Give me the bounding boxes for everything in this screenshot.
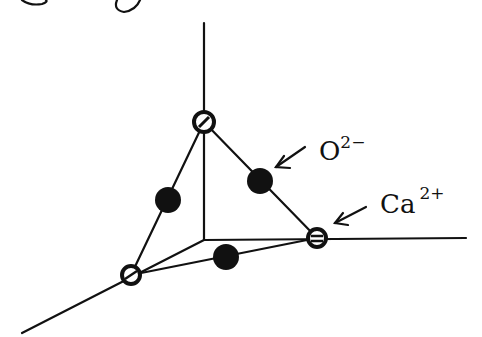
cropped-handwriting-right bbox=[116, 0, 140, 12]
cropped-handwriting-left bbox=[22, 0, 47, 5]
oxide-ion-right bbox=[247, 168, 273, 194]
oxide-pointer-arrow bbox=[276, 147, 305, 168]
calcium-ion-right bbox=[308, 229, 326, 247]
oxide-label: O2− bbox=[319, 132, 365, 166]
diagonal-axis bbox=[22, 240, 204, 333]
calcium-ion-left bbox=[122, 266, 140, 284]
calcium-pointer-arrow bbox=[335, 207, 366, 225]
crystal-diagram: O2− Ca2+ bbox=[0, 0, 482, 337]
horizontal-axis bbox=[204, 238, 466, 240]
oxide-ion-left bbox=[155, 187, 181, 213]
calcium-ion-top bbox=[194, 112, 214, 132]
oxide-ion-bottom bbox=[213, 244, 239, 270]
calcium-label: Ca2+ bbox=[380, 183, 444, 219]
